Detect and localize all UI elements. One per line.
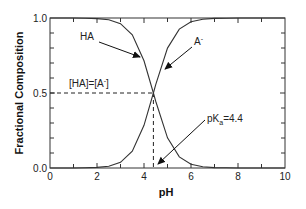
x-tick-label: 10 [279,171,291,182]
x-axis-title: pH [159,186,174,198]
y-tick-label: 0.5 [33,88,47,99]
titration-chart: 1.0 0.5 0.0 0 2 4 6 8 10 pH Fractional C… [0,0,306,209]
a-minus-label: A- [194,35,204,47]
equality-label: [HA]=[A-] [69,77,109,89]
y-tick-label: 1.0 [33,13,47,24]
a-minus-arrow [165,47,192,69]
x-tick-label: 0 [47,171,53,182]
x-tick-label: 6 [188,171,194,182]
y-tick-label: 0.0 [33,163,47,174]
x-tick-label: 2 [94,171,100,182]
ha-label: HA [80,31,94,42]
x-tick-label: 8 [235,171,241,182]
pka-arrow [158,120,205,164]
ha-arrow [99,42,140,57]
x-tick-label: 4 [141,171,147,182]
y-axis-title: Fractional Composition [13,31,25,154]
pka-label: pKa=4.4 [207,113,243,126]
